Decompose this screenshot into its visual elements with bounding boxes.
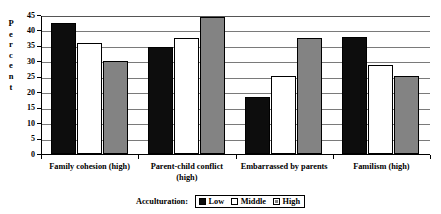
x-tick: [430, 155, 431, 159]
y-tick-label: 0: [31, 150, 35, 160]
legend-box: LowMiddleHigh: [195, 195, 305, 208]
bar-low[interactable]: [245, 97, 270, 154]
y-tick-label: 40: [27, 26, 35, 36]
legend: Acculturation: LowMiddleHigh: [0, 192, 441, 210]
bar-low[interactable]: [51, 23, 76, 154]
y-axis-ticks: 454035302520151050: [0, 16, 41, 155]
bar-middle[interactable]: [77, 43, 102, 154]
y-tick-label: 45: [27, 11, 35, 21]
bar-middle[interactable]: [271, 76, 296, 154]
y-tick-label: 35: [27, 41, 35, 51]
bar-low[interactable]: [148, 47, 173, 154]
y-tick-label: 15: [27, 103, 35, 113]
legend-swatch-middle: [231, 198, 238, 205]
bar-group-bars: [236, 16, 333, 154]
bar-high[interactable]: [297, 38, 322, 154]
y-tick-label: 30: [27, 57, 35, 67]
legend-item[interactable]: High: [273, 197, 300, 206]
legend-swatch-high: [273, 198, 280, 205]
bar-chart-figure: P e r c e n t 454035302520151050 Family …: [0, 0, 441, 214]
legend-item[interactable]: Low: [199, 197, 224, 206]
x-tick: [236, 155, 237, 159]
bar-group-bars: [42, 16, 139, 154]
bar-middle[interactable]: [368, 65, 393, 154]
x-tick: [41, 155, 42, 159]
bar-middle[interactable]: [174, 38, 199, 154]
x-axis-labels: Family cohesion (high)Parent-child confl…: [41, 161, 430, 191]
x-axis-label: Family cohesion (high): [41, 161, 138, 191]
bar-group-bars: [139, 16, 236, 154]
bar-group: [333, 16, 430, 154]
legend-item[interactable]: Middle: [231, 197, 266, 206]
bar-group: [236, 16, 333, 154]
bar-group: [139, 16, 236, 154]
x-axis-ticks: [41, 155, 430, 160]
bar-group-bars: [333, 16, 430, 154]
legend-title: Acculturation:: [136, 197, 188, 206]
bar-groups: [42, 16, 430, 154]
y-tick-label: 20: [27, 88, 35, 98]
bar-high[interactable]: [394, 76, 419, 154]
plot-area: [41, 16, 430, 155]
bar-high[interactable]: [103, 61, 128, 154]
x-tick: [333, 155, 334, 159]
x-tick: [138, 155, 139, 159]
y-tick-label: 25: [27, 72, 35, 82]
bar-low[interactable]: [342, 37, 367, 154]
legend-label: High: [283, 197, 301, 206]
bar-group: [42, 16, 139, 154]
y-tick-label: 10: [27, 119, 35, 129]
bar-high[interactable]: [200, 17, 225, 154]
x-axis-label: Familism (high): [333, 161, 430, 191]
legend-label: Low: [209, 197, 225, 206]
x-axis-label: Parent-child conflict (high): [138, 161, 235, 191]
x-axis-label: Embarrassed by parents: [236, 161, 333, 191]
legend-swatch-low: [199, 198, 206, 205]
legend-label: Middle: [241, 197, 266, 206]
y-tick-label: 5: [31, 134, 35, 144]
